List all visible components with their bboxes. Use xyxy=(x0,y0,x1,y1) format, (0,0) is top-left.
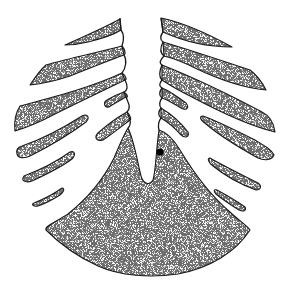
right-rib-1 xyxy=(161,18,232,47)
central-mass xyxy=(46,128,250,276)
diagram-svg xyxy=(0,0,289,282)
stippled-section-diagram xyxy=(0,0,289,282)
notch-left-edge xyxy=(120,18,131,128)
left-rib-6 xyxy=(33,188,64,206)
left-rib-1 xyxy=(65,19,121,45)
black-dot-marker xyxy=(156,148,163,155)
left-rib-small-1 xyxy=(105,92,126,107)
right-rib-5 xyxy=(208,158,260,190)
